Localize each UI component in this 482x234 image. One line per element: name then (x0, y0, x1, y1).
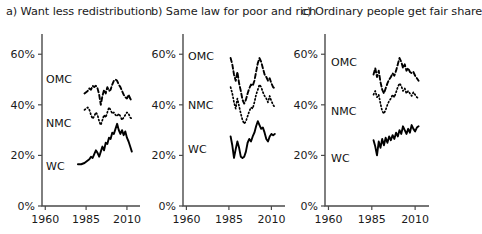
series-label-omc: OMC (331, 56, 357, 69)
series-line-nmc (374, 83, 419, 113)
x-tick-label: 2010 (257, 213, 285, 226)
series-label-nmc: NMC (188, 99, 214, 112)
plot-area-c: 0%20%40%60%196019852010OMCNMCWC (295, 22, 448, 234)
panel-title-a: a) Want less redistribution (6, 5, 156, 18)
series-label-omc: OMC (46, 73, 72, 86)
panel-title-c: c) Ordinary people get fair share (301, 5, 454, 18)
chart-panel-c: c) Ordinary people get fair share 0%20%4… (295, 0, 448, 234)
series-line-nmc (231, 85, 275, 124)
series-line-wc (78, 124, 132, 164)
series-line-wc (231, 121, 275, 158)
series-line-nmc (84, 107, 131, 125)
series-line-omc (374, 58, 419, 93)
y-tick-label: 20% (152, 149, 176, 162)
x-tick-label: 1960 (314, 213, 342, 226)
series-line-omc (84, 80, 131, 105)
x-tick-label: 1985 (72, 213, 100, 226)
y-tick-label: 40% (294, 99, 318, 112)
y-tick-label: 0% (18, 200, 35, 213)
y-tick-label: 0% (301, 200, 318, 213)
x-tick-label: 2010 (401, 213, 429, 226)
series-label-wc: WC (331, 152, 350, 165)
series-line-omc (231, 58, 275, 104)
y-tick-label: 60% (294, 48, 318, 61)
x-tick-label: 2010 (113, 213, 141, 226)
chart-svg-b: 0%20%40%60%196019852010OMCNMCWC (145, 22, 300, 234)
y-tick-label: 40% (11, 99, 35, 112)
x-tick-label: 1960 (172, 213, 200, 226)
series-label-omc: OMC (188, 50, 214, 63)
y-tick-label: 20% (294, 149, 318, 162)
panel-title-b: b) Same law for poor and rich (151, 5, 306, 18)
chart-svg-a: 0%20%40%60%196019852010OMCNMCWC (0, 22, 150, 234)
series-line-wc (374, 125, 419, 155)
series-label-nmc: NMC (331, 105, 357, 118)
y-tick-label: 40% (152, 99, 176, 112)
chart-panel-b: b) Same law for poor and rich 0%20%40%60… (145, 0, 300, 234)
plot-area-a: 0%20%40%60%196019852010OMCNMCWC (0, 22, 150, 234)
y-tick-label: 0% (159, 200, 176, 213)
y-tick-label: 60% (152, 48, 176, 61)
y-tick-label: 20% (11, 149, 35, 162)
x-tick-label: 1985 (358, 213, 386, 226)
series-label-wc: WC (188, 143, 207, 156)
series-label-nmc: NMC (46, 117, 72, 130)
x-tick-label: 1960 (31, 213, 59, 226)
x-tick-label: 1985 (215, 213, 243, 226)
chart-panel-a: a) Want less redistribution 0%20%40%60%1… (0, 0, 150, 234)
plot-area-b: 0%20%40%60%196019852010OMCNMCWC (145, 22, 300, 234)
chart-svg-c: 0%20%40%60%196019852010OMCNMCWC (295, 22, 448, 234)
y-tick-label: 60% (11, 48, 35, 61)
series-label-wc: WC (46, 160, 65, 173)
